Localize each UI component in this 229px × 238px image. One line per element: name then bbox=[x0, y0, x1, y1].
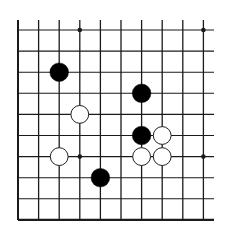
star-point-icon bbox=[78, 154, 83, 159]
stones-layer bbox=[50, 63, 171, 187]
star-point-icon bbox=[201, 154, 206, 159]
white-stone-icon[interactable] bbox=[133, 148, 151, 166]
white-stone-icon[interactable] bbox=[153, 127, 171, 145]
black-stone-icon[interactable] bbox=[91, 168, 110, 187]
board-grid bbox=[18, 20, 214, 220]
black-stone-icon[interactable] bbox=[50, 63, 69, 82]
star-point-icon bbox=[201, 28, 206, 33]
white-stone-icon[interactable] bbox=[153, 148, 171, 166]
white-stone-icon[interactable] bbox=[71, 106, 89, 124]
black-stone-icon[interactable] bbox=[132, 126, 151, 145]
white-stone-icon[interactable] bbox=[50, 148, 68, 166]
star-point-icon bbox=[78, 28, 83, 33]
black-stone-icon[interactable] bbox=[132, 84, 151, 103]
go-board[interactable] bbox=[0, 0, 229, 238]
